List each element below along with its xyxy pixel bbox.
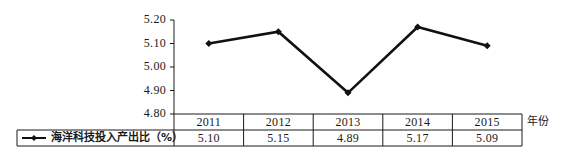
table-value-cell: 4.89 (313, 131, 383, 145)
legend-line-icon (22, 135, 46, 141)
x-axis-title: 年份 (527, 115, 549, 129)
y-tick-label: 5.10 (106, 37, 166, 49)
table-value-cell: 5.10 (174, 131, 244, 145)
table-header-cell: 2012 (244, 115, 314, 129)
data-point-marker (205, 40, 212, 47)
y-axis-ticks (170, 20, 174, 114)
data-point-marker (484, 42, 491, 49)
legend-label: 海洋科技投入产出比（%） (51, 131, 173, 145)
table-header-cell: 2013 (313, 115, 383, 129)
y-tick-label: 5.20 (106, 13, 166, 25)
series-line (209, 27, 487, 93)
y-tick-label: 4.90 (106, 84, 166, 96)
table-value-cell: 5.09 (452, 131, 522, 145)
table-header-cell: 2015 (452, 115, 522, 129)
table-value-cell: 5.15 (244, 131, 314, 145)
y-tick-label: 4.80 (106, 107, 166, 119)
table-header-cell: 2014 (383, 115, 453, 129)
table-header-cell: 2011 (174, 115, 244, 129)
table-value-cell: 5.17 (383, 131, 453, 145)
y-tick-label: 5.00 (106, 60, 166, 72)
